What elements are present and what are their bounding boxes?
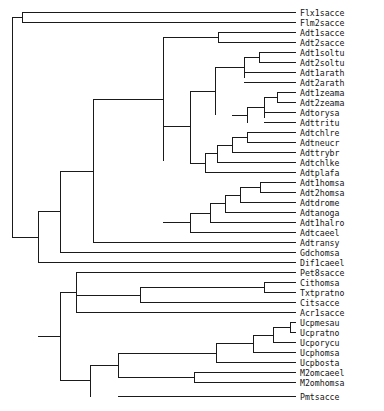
tip-label-ucporycu: Ucporycu bbox=[300, 338, 340, 348]
tree-canvas: Flx1sacceFlm2sacceAdt1sacceAdt2sacceAdt1… bbox=[0, 0, 384, 411]
tip-label-adtransy: Adtransy bbox=[300, 238, 340, 248]
tip-label-pet8sacce: Pet8sacce bbox=[300, 268, 344, 278]
tip-label-ucpmesau: Ucpmesau bbox=[300, 318, 340, 328]
tip-label-adtdrome: Adtdrome bbox=[300, 198, 340, 208]
tip-label-acr1sacce: Acr1sacce bbox=[300, 308, 344, 318]
tip-label-adt2soltu: Adt2soltu bbox=[300, 58, 344, 68]
tip-label-adt1halro: Adt1halro bbox=[300, 218, 344, 228]
tip-label-adt1sacce: Adt1sacce bbox=[300, 28, 344, 38]
tip-label-adt2sacce: Adt2sacce bbox=[300, 38, 344, 48]
tip-label-ucphomsa: Ucphomsa bbox=[300, 348, 340, 358]
tip-label-pmtsacce: Pmtsacce bbox=[300, 392, 340, 402]
tip-label-flx1sacce: Flx1sacce bbox=[300, 8, 344, 18]
tip-label-m2omhomsa: M2omhomsa bbox=[300, 378, 344, 388]
tip-label-adt1homsa: Adt1homsa bbox=[300, 178, 344, 188]
tip-label-adt1arath: Adt1arath bbox=[300, 68, 344, 78]
tip-label-adttrybr: Adttrybr bbox=[300, 148, 340, 158]
tree-tip-labels: Flx1sacceFlm2sacceAdt1sacceAdt2sacceAdt1… bbox=[300, 8, 344, 402]
tip-label-gdchomsa: Gdchomsa bbox=[300, 248, 340, 258]
tip-label-cithomsa: Cithomsa bbox=[300, 278, 340, 288]
tip-label-m2omcaeel: M2omcaeel bbox=[300, 368, 344, 378]
tip-label-citsacce: Citsacce bbox=[300, 298, 340, 308]
tip-label-adt2homsa: Adt2homsa bbox=[300, 188, 344, 198]
tip-label-adt2zeama: Adt2zeama bbox=[300, 98, 344, 108]
tip-label-adtorysa: Adtorysa bbox=[300, 108, 340, 118]
phylogenetic-tree-figure: Flx1sacceFlm2sacceAdt1sacceAdt2sacceAdt1… bbox=[0, 0, 384, 411]
tip-label-adt1zeama: Adt1zeama bbox=[300, 88, 344, 98]
tip-label-adtchlke: Adtchlke bbox=[300, 158, 340, 168]
tip-label-adtanoga: Adtanoga bbox=[300, 208, 340, 218]
tip-label-flm2sacce: Flm2sacce bbox=[300, 18, 344, 28]
tip-label-adtcaeel: Adtcaeel bbox=[300, 228, 340, 238]
tip-label-adttritu: Adttritu bbox=[300, 118, 340, 128]
tip-label-adt1soltu: Adt1soltu bbox=[300, 48, 344, 58]
tip-label-adtneucr: Adtneucr bbox=[300, 138, 340, 148]
tip-label-dif1caeel: Dif1caeel bbox=[300, 258, 344, 268]
tip-label-adtplafa: Adtplafa bbox=[300, 168, 340, 178]
tip-label-adtchlre: Adtchlre bbox=[300, 128, 340, 138]
tree-branches bbox=[12, 13, 296, 397]
tip-label-ucpbosta: Ucpbosta bbox=[300, 358, 340, 368]
tip-label-adt2arath: Adt2arath bbox=[300, 78, 344, 88]
tip-label-txtpratno: Txtpratno bbox=[300, 288, 344, 298]
tip-label-ucpratno: Ucpratno bbox=[300, 328, 340, 338]
